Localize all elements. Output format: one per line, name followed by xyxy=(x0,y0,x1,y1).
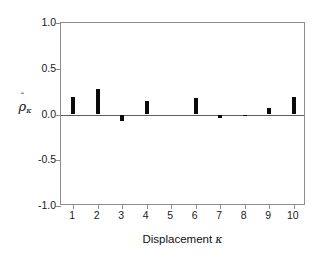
y-tick-label: 1.0 xyxy=(26,17,56,28)
x-tick-label: 5 xyxy=(158,210,182,221)
bar xyxy=(267,108,271,114)
plot-frame xyxy=(60,22,305,205)
x-tick-label: 9 xyxy=(256,210,280,221)
bar xyxy=(194,98,198,114)
x-tick-label: 6 xyxy=(183,210,207,221)
bar xyxy=(120,115,124,121)
y-axis-tick xyxy=(56,115,61,116)
bar xyxy=(145,101,149,115)
bar xyxy=(243,115,247,117)
y-axis-tick xyxy=(56,206,61,207)
bar xyxy=(218,115,222,119)
zero-baseline xyxy=(61,115,304,116)
x-tick-label: 7 xyxy=(207,210,231,221)
y-tick-label: 0.0 xyxy=(26,109,56,120)
correlogram-figure: ˆ ρ κ 1.00.50.0-0.5-1.0 12345678910 Disp… xyxy=(0,0,324,266)
y-axis-tick xyxy=(56,23,61,24)
bar xyxy=(292,97,296,114)
y-tick-label: -1.0 xyxy=(26,200,56,211)
y-tick-label: -0.5 xyxy=(26,154,56,165)
y-tick-label-group: 1.00.50.0-0.5-1.0 xyxy=(23,0,56,266)
bar xyxy=(71,97,75,114)
x-tick-label: 2 xyxy=(85,210,109,221)
y-tick-label: 0.5 xyxy=(26,63,56,74)
x-tick-label: 10 xyxy=(281,210,305,221)
x-axis-label: Displacement κ xyxy=(60,234,305,246)
bar xyxy=(96,89,100,115)
plot-area xyxy=(61,23,304,204)
kappa-symbol: κ xyxy=(215,233,222,246)
x-tick-label: 4 xyxy=(134,210,158,221)
y-axis-tick xyxy=(56,160,61,161)
x-tick-label: 1 xyxy=(60,210,84,221)
x-tick-label: 3 xyxy=(109,210,133,221)
x-tick-label: 8 xyxy=(232,210,256,221)
x-axis-label-text: Displacement xyxy=(142,233,212,245)
y-axis-tick xyxy=(56,69,61,70)
